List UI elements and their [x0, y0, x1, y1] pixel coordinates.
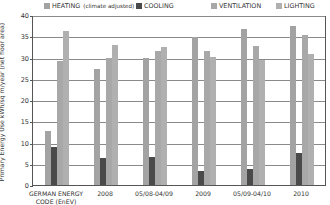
legend-swatch — [211, 3, 217, 9]
y-tick-mark — [30, 144, 33, 145]
y-tick-mark — [30, 165, 33, 166]
y-tick-label: 30 — [17, 55, 29, 63]
y-tick-mark — [30, 80, 33, 81]
legend-label: COOLING — [144, 2, 174, 10]
y-tick-label: 25 — [17, 76, 29, 84]
bar-lighting — [308, 54, 314, 185]
y-axis-label: Primary Energy Use kWh/sq m/year (net fl… — [0, 2, 8, 202]
bar-lighting — [112, 45, 118, 185]
y-tick-label: 20 — [17, 97, 29, 105]
gridline — [33, 16, 325, 17]
x-tick-label: GERMAN ENERGYCODE (EnEV) — [29, 190, 83, 205]
gridline — [33, 101, 325, 102]
x-tick-label: 2010 — [293, 190, 309, 198]
x-tick-label: 05/09-04/10 — [233, 190, 271, 198]
bar-lighting — [210, 57, 216, 185]
x-tick-label: 2008 — [97, 190, 113, 198]
y-tick-label: 15 — [17, 118, 29, 126]
gridline — [33, 37, 325, 38]
y-tick-label: 40 — [17, 12, 29, 20]
legend-label: VENTILATION — [219, 2, 261, 10]
legend-swatch — [44, 3, 50, 9]
bar-lighting — [259, 60, 265, 185]
legend-label: LIGHTING — [284, 2, 315, 10]
y-tick-mark — [30, 186, 33, 187]
chart-legend: HEATING(climate adjusted)COOLINGVENTILAT… — [44, 2, 330, 14]
legend-swatch — [276, 3, 282, 9]
gridline — [33, 59, 325, 60]
legend-item-cooling: COOLING — [136, 2, 174, 10]
legend-item-heating: HEATING(climate adjusted) — [44, 2, 134, 10]
legend-item-lighting: LIGHTING — [276, 2, 315, 10]
y-tick-mark — [30, 16, 33, 17]
gridline — [33, 122, 325, 123]
x-tick-label: 2009 — [195, 190, 211, 198]
y-tick-label: 0 — [17, 182, 29, 190]
legend-item-ventilation: VENTILATION — [211, 2, 261, 10]
y-tick-mark — [30, 101, 33, 102]
x-tick-label: 05/08-04/09 — [135, 190, 173, 198]
bar-lighting — [161, 47, 167, 185]
legend-swatch — [136, 3, 142, 9]
bar-lighting — [63, 31, 69, 185]
y-tick-label: 5 — [17, 161, 29, 169]
gridline — [33, 144, 325, 145]
y-tick-label: 35 — [17, 33, 29, 41]
bar-heating — [192, 37, 198, 185]
y-tick-mark — [30, 37, 33, 38]
gridline — [33, 80, 325, 81]
plot-area: 0510152025303540 — [32, 16, 326, 186]
y-tick-label: 10 — [17, 140, 29, 148]
y-tick-mark — [30, 122, 33, 123]
legend-label: HEATING — [52, 2, 80, 10]
y-tick-mark — [30, 59, 33, 60]
legend-note: (climate adjusted) — [83, 3, 134, 9]
gridline — [33, 165, 325, 166]
bar-heating — [241, 29, 247, 185]
